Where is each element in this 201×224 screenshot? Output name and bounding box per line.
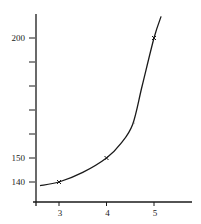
x-tick-label: 4 [105,208,110,218]
y-tick-label: 140 [12,177,26,187]
line-chart: 140150200 345 [0,0,201,224]
x-ticks: 345 [58,202,158,218]
cross-marker [105,156,109,160]
x-tick-label: 3 [58,208,63,218]
x-tick-label: 5 [153,208,158,218]
data-markers [57,36,156,184]
data-curve [40,16,161,185]
stray-dot [133,122,134,123]
y-ticks: 140150200 [12,33,36,187]
y-tick-label: 200 [12,33,26,43]
y-tick-label: 150 [12,153,26,163]
